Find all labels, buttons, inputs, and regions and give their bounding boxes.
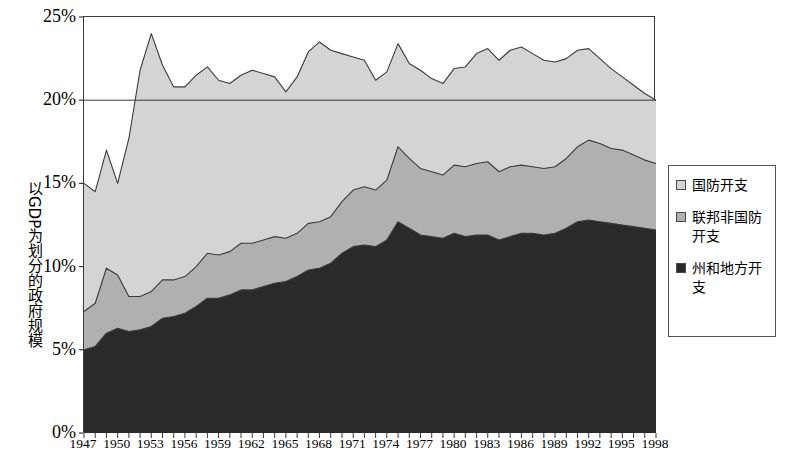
- x-axis-tick-label: 1986: [507, 436, 534, 452]
- x-axis-tick-label: 1977: [406, 436, 433, 452]
- area-chart: 以GDP为划分的政府规模 0%5%10%15%20%25% 1947195019…: [0, 0, 786, 457]
- x-axis-tick-label: 1983: [473, 436, 500, 452]
- legend-item-label: 州和地方开支: [692, 259, 774, 297]
- y-axis-tick-label: 20%: [18, 90, 76, 108]
- stacked-area-plot: [84, 17, 656, 439]
- x-axis-tick-label-group: 1947195019531956195919621965196819711974…: [0, 436, 786, 457]
- legend-item[interactable]: 联邦非国防开支: [676, 208, 775, 246]
- y-axis-tick-label: 25%: [18, 7, 76, 25]
- legend-item[interactable]: 州和地方开支: [676, 259, 775, 297]
- x-axis-tick-label: 1989: [541, 436, 568, 452]
- legend-swatch-icon: [676, 263, 686, 273]
- x-axis-tick-label: 1956: [170, 436, 197, 452]
- x-axis-tick-label: 1980: [440, 436, 467, 452]
- legend-item-label: 国防开支: [692, 176, 774, 195]
- x-axis-tick-label: 1965: [271, 436, 298, 452]
- x-axis-tick-label: 1953: [137, 436, 164, 452]
- y-axis-tick-label: 5%: [18, 340, 76, 358]
- legend-item-label: 联邦非国防开支: [692, 208, 774, 246]
- x-axis-tick-label: 1962: [238, 436, 265, 452]
- plot-area: [83, 16, 655, 432]
- x-axis-tick-label: 1968: [305, 436, 332, 452]
- y-axis-tick-label: 10%: [18, 257, 76, 275]
- x-axis-tick-label: 1959: [204, 436, 231, 452]
- x-axis-tick-label: 1995: [608, 436, 635, 452]
- legend-item[interactable]: 国防开支: [676, 176, 775, 195]
- legend-swatch-icon: [676, 180, 686, 190]
- legend-swatch-icon: [676, 212, 686, 222]
- x-axis-tick-label: 1950: [103, 436, 130, 452]
- x-axis-tick-label: 1998: [642, 436, 669, 452]
- x-axis-tick-label: 1971: [339, 436, 366, 452]
- chart-legend: 国防开支联邦非国防开支州和地方开支: [668, 165, 776, 337]
- y-axis-tick-label-group: 0%5%10%15%20%25%: [8, 0, 76, 457]
- x-axis-tick-label: 1974: [372, 436, 399, 452]
- x-axis-tick-label: 1947: [70, 436, 97, 452]
- x-axis-tick-label: 1992: [574, 436, 601, 452]
- y-axis-tick-label: 15%: [18, 173, 76, 191]
